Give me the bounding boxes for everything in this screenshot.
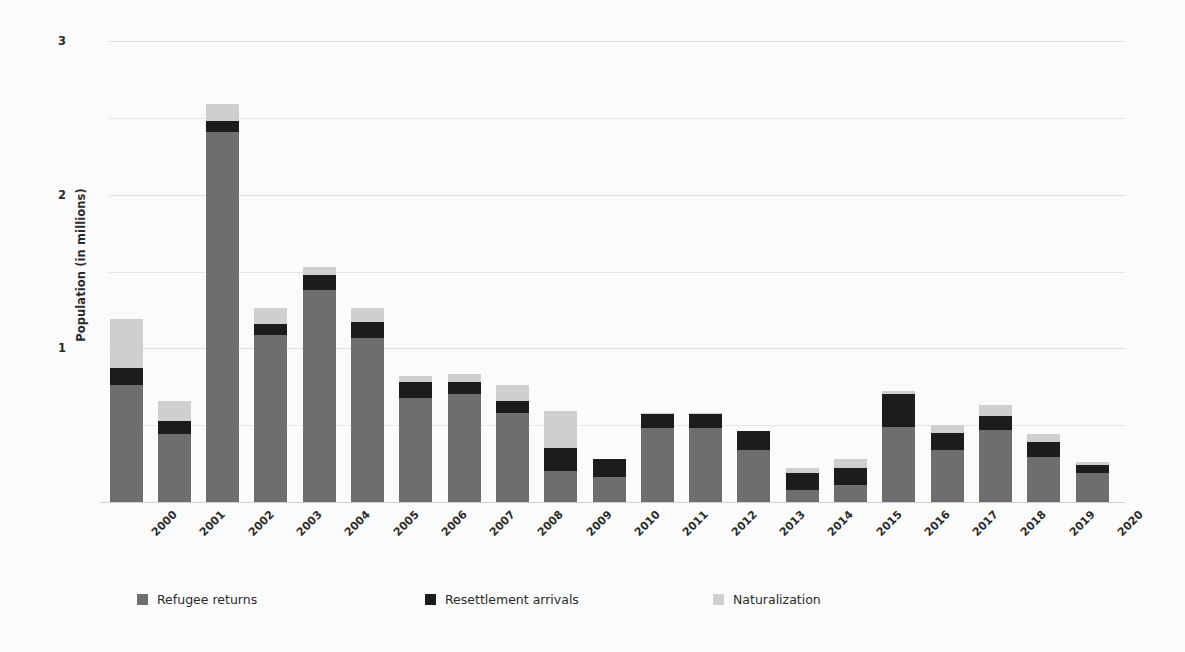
segment-resettlement-arrivals [1076, 465, 1109, 473]
segment-naturalization [254, 308, 287, 323]
legend-swatch-icon [425, 594, 436, 605]
legend-swatch-icon [713, 594, 724, 605]
segment-refugee-returns [786, 490, 819, 502]
x-axis-tick-label: 2020 [1115, 508, 1146, 539]
bar-2002[interactable] [206, 104, 239, 502]
x-axis-tick-label: 2011 [680, 508, 711, 539]
segment-refugee-returns [882, 427, 915, 502]
segment-resettlement-arrivals [641, 414, 674, 428]
segment-naturalization [496, 385, 529, 400]
bar-2001[interactable] [158, 401, 191, 502]
x-axis-tick-label: 2019 [1067, 508, 1098, 539]
plot-area [109, 41, 1125, 502]
segment-refugee-returns [254, 335, 287, 502]
x-axis-tick-label: 2001 [197, 508, 228, 539]
segment-refugee-returns [1076, 473, 1109, 502]
segment-refugee-returns [593, 477, 626, 502]
legend-item-resettlement-arrivals[interactable]: Resettlement arrivals [425, 592, 579, 607]
segment-refugee-returns [979, 430, 1012, 502]
bar-2005[interactable] [351, 308, 384, 502]
bar-2017[interactable] [931, 425, 964, 502]
legend-item-naturalization[interactable]: Naturalization [713, 592, 821, 607]
segment-resettlement-arrivals [786, 473, 819, 490]
bar-2007[interactable] [448, 374, 481, 502]
gridline [109, 272, 1125, 273]
legend-label: Naturalization [733, 592, 821, 607]
x-axis-tick-label: 2012 [729, 508, 760, 539]
legend-item-refugee-returns[interactable]: Refugee returns [137, 592, 257, 607]
bar-2019[interactable] [1027, 434, 1060, 502]
segment-naturalization [544, 411, 577, 448]
segment-resettlement-arrivals [303, 275, 336, 290]
segment-refugee-returns [158, 434, 191, 502]
bar-2018[interactable] [979, 405, 1012, 502]
segment-naturalization [834, 459, 867, 468]
bar-2012[interactable] [689, 413, 722, 502]
segment-naturalization [979, 405, 1012, 416]
segment-refugee-returns [206, 132, 239, 502]
y-axis-tick-label: 1 [26, 341, 66, 355]
x-axis-tick-label: 2009 [584, 508, 615, 539]
x-axis-tick-label: 2015 [873, 508, 904, 539]
bar-2010[interactable] [593, 459, 626, 502]
x-axis-tick-label: 2013 [777, 508, 808, 539]
legend-label: Resettlement arrivals [445, 592, 579, 607]
bar-2000[interactable] [110, 319, 143, 502]
bar-2013[interactable] [737, 431, 770, 502]
segment-refugee-returns [351, 338, 384, 502]
segment-refugee-returns [399, 398, 432, 502]
segment-resettlement-arrivals [689, 414, 722, 428]
bar-2020[interactable] [1076, 462, 1109, 502]
segment-naturalization [303, 267, 336, 275]
segment-refugee-returns [303, 290, 336, 502]
segment-naturalization [931, 425, 964, 433]
gridline [109, 195, 1125, 196]
bar-2011[interactable] [641, 413, 674, 502]
bar-2008[interactable] [496, 385, 529, 502]
bar-2009[interactable] [544, 411, 577, 502]
segment-naturalization [110, 319, 143, 368]
segment-refugee-returns [834, 485, 867, 502]
segment-resettlement-arrivals [158, 421, 191, 435]
segment-resettlement-arrivals [448, 382, 481, 394]
segment-resettlement-arrivals [496, 401, 529, 413]
x-axis-tick-label: 2004 [342, 508, 373, 539]
x-axis-tick-label: 2006 [439, 508, 470, 539]
x-axis-tick-label: 2017 [970, 508, 1001, 539]
x-axis-tick-label: 2018 [1018, 508, 1049, 539]
segment-resettlement-arrivals [979, 416, 1012, 430]
x-axis-tick-label: 2002 [246, 508, 277, 539]
segment-resettlement-arrivals [834, 468, 867, 485]
bar-2006[interactable] [399, 376, 432, 502]
bar-2016[interactable] [882, 391, 915, 502]
segment-refugee-returns [689, 428, 722, 502]
y-axis-tick-label: 3 [26, 34, 66, 48]
bar-2003[interactable] [254, 308, 287, 502]
segment-naturalization [158, 401, 191, 421]
segment-resettlement-arrivals [931, 433, 964, 450]
bar-2004[interactable] [303, 267, 336, 502]
chart-legend: Refugee returnsResettlement arrivalsNatu… [0, 588, 1185, 618]
bar-2015[interactable] [834, 459, 867, 502]
x-axis-tick-label: 2016 [922, 508, 953, 539]
x-axis-tick-label: 2014 [825, 508, 856, 539]
segment-resettlement-arrivals [544, 448, 577, 471]
segment-naturalization [206, 104, 239, 121]
segment-resettlement-arrivals [737, 431, 770, 449]
segment-refugee-returns [1027, 457, 1060, 502]
stacked-bar-chart: Population (in millions) Refugee returns… [0, 0, 1185, 652]
segment-naturalization [351, 308, 384, 322]
bar-2014[interactable] [786, 468, 819, 502]
segment-resettlement-arrivals [1027, 442, 1060, 457]
x-axis-tick-label: 2000 [149, 508, 180, 539]
segment-refugee-returns [544, 471, 577, 502]
x-axis-tick-label: 2008 [535, 508, 566, 539]
segment-resettlement-arrivals [110, 368, 143, 385]
segment-resettlement-arrivals [254, 324, 287, 335]
legend-swatch-icon [137, 594, 148, 605]
x-axis-tick-label: 2010 [632, 508, 663, 539]
segment-refugee-returns [931, 450, 964, 502]
segment-resettlement-arrivals [593, 459, 626, 477]
segment-refugee-returns [496, 413, 529, 502]
segment-naturalization [1027, 434, 1060, 442]
